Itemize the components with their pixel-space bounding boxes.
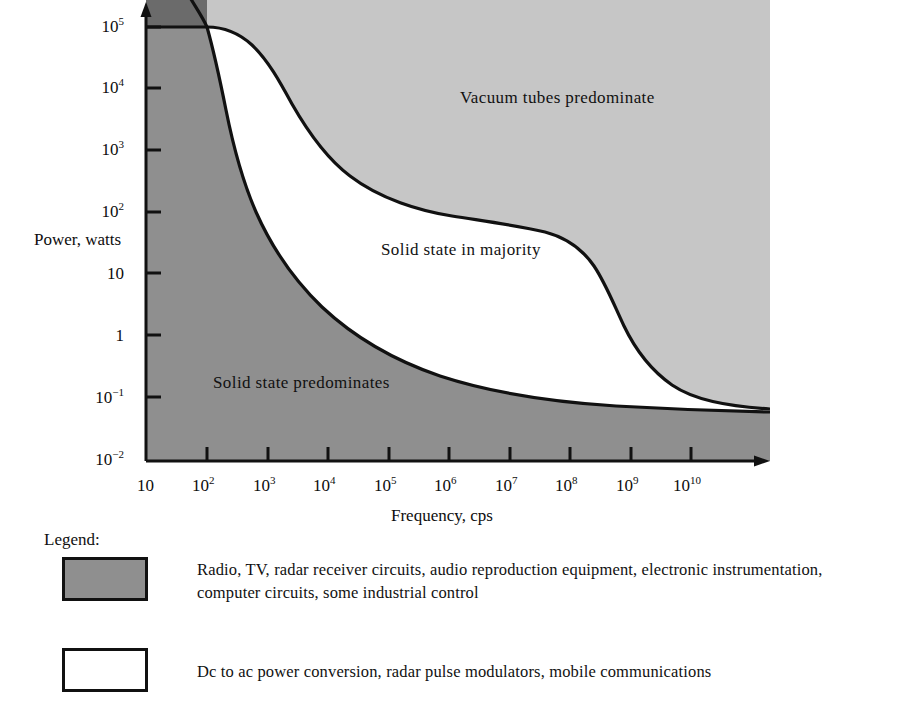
y-tick-label-1e-2: 10−2 bbox=[72, 451, 124, 468]
x-tick-label-1e4: 104 bbox=[313, 477, 336, 494]
legend-row-solid-state: Radio, TV, radar receiver circuits, audi… bbox=[0, 557, 912, 619]
legend-text-dc-to-ac: Dc to ac power conversion, radar pulse m… bbox=[197, 660, 897, 683]
legend-row-dc-to-ac: Dc to ac power conversion, radar pulse m… bbox=[0, 648, 912, 696]
x-tick-label-1e6: 106 bbox=[434, 477, 457, 494]
chart-svg bbox=[0, 0, 912, 520]
x-tick-label-1e9: 109 bbox=[616, 477, 639, 494]
y-tick-label-1: 1 bbox=[78, 327, 124, 344]
x-tick-label-1e8: 108 bbox=[555, 477, 578, 494]
legend-text-solid-state: Radio, TV, radar receiver circuits, audi… bbox=[197, 558, 897, 604]
x-tick-label-1e5: 105 bbox=[374, 477, 397, 494]
legend-title: Legend: bbox=[44, 530, 100, 550]
y-tick-label-1e4: 104 bbox=[78, 79, 124, 96]
legend-text-line-1: Dc to ac power conversion, radar pulse m… bbox=[197, 660, 897, 683]
region-label-solid-state-majority: Solid state in majority bbox=[381, 240, 541, 260]
region-label-vacuum-tubes: Vacuum tubes predominate bbox=[460, 88, 655, 108]
x-tick-label-1e2: 102 bbox=[192, 477, 215, 494]
region-label-solid-state-predominates: Solid state predominates bbox=[213, 373, 390, 393]
y-tick-label-1e2: 102 bbox=[78, 203, 124, 220]
legend-swatch-dark-gray bbox=[62, 557, 148, 601]
y-tick-label-10: 10 bbox=[78, 265, 124, 282]
legend-text-line-1: Radio, TV, radar receiver circuits, audi… bbox=[197, 558, 897, 581]
legend: Legend: Radio, TV, radar receiver circui… bbox=[0, 520, 912, 727]
x-tick-label-1e7: 107 bbox=[495, 477, 518, 494]
chart-plot-area: 105 104 103 102 10 1 10−1 10−2 Power, wa… bbox=[0, 0, 912, 520]
y-tick-label-1e-1: 10−1 bbox=[72, 389, 124, 406]
figure-power-vs-frequency: 105 104 103 102 10 1 10−1 10−2 Power, wa… bbox=[0, 0, 912, 727]
y-tick-label-1e3: 103 bbox=[78, 141, 124, 158]
region-top-left-dark-corner bbox=[146, 0, 207, 27]
x-tick-label-1e3: 103 bbox=[253, 477, 276, 494]
legend-text-line-2: computer circuits, some industrial contr… bbox=[197, 581, 897, 604]
legend-swatch-white bbox=[62, 648, 148, 692]
x-tick-label-1e10: 1010 bbox=[673, 477, 701, 494]
x-tick-label-10: 10 bbox=[137, 477, 154, 494]
y-axis-title: Power, watts bbox=[34, 230, 121, 250]
y-tick-label-1e5: 105 bbox=[78, 18, 124, 35]
